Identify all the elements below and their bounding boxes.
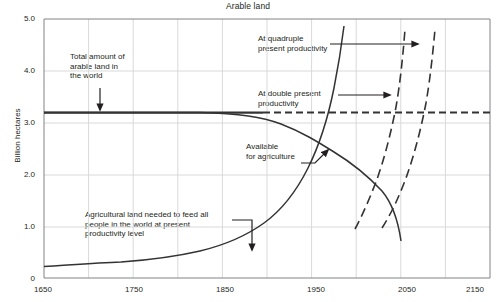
- plot-area: [0, 0, 496, 302]
- chart-root: Arable land Billion hectares 5.0 4.0 3.0…: [0, 0, 496, 302]
- grid-vertical: [89, 19, 446, 278]
- annotation-arrows: [100, 44, 418, 250]
- series-quadruple-present-productivity: [382, 29, 435, 228]
- arrow-needed-present-productivity: [232, 220, 252, 250]
